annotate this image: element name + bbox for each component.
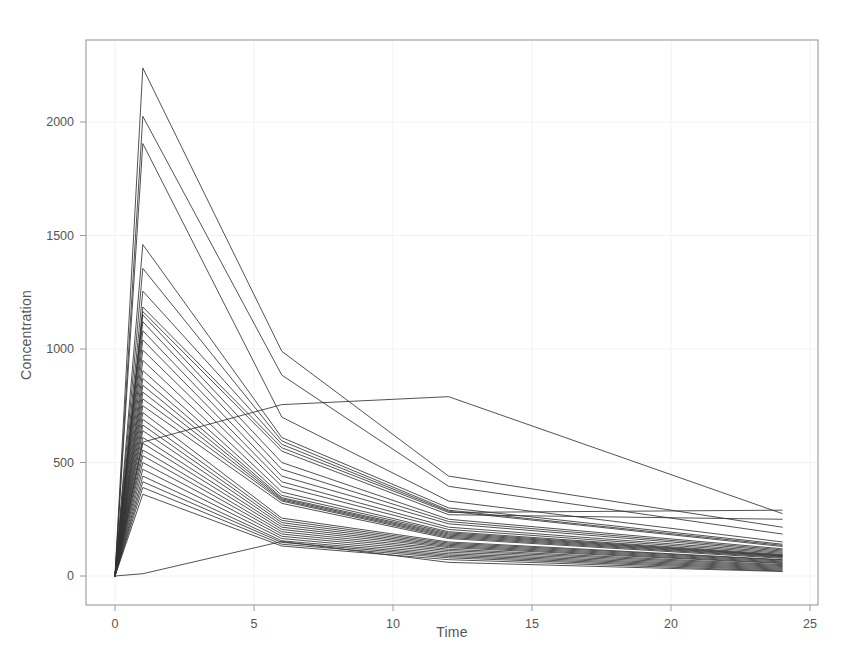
x-tick-label: 20 [664,617,678,631]
gridlines [86,40,818,605]
y-tick-label: 500 [53,456,74,470]
x-tick-label: 0 [112,617,119,631]
series-line [115,315,782,576]
y-tick-label: 0 [67,569,74,583]
y-tick-label: 1500 [46,229,74,243]
y-tick-label: 1000 [46,342,74,356]
series-line [115,245,782,576]
x-tick-label: 25 [803,617,817,631]
series-line [115,360,782,576]
plot-frame [86,40,818,605]
concentration-time-chart: Concentration Time 051015202505001000150… [0,0,857,666]
x-tick-label: 10 [386,617,400,631]
x-tick-label: 5 [251,617,258,631]
x-axis-title: Time [436,624,467,640]
series-line [115,331,782,576]
series-line [115,68,782,576]
series-line [115,340,782,576]
y-axis-title: Concentration [18,290,34,380]
series-line [115,116,782,576]
series-line [115,322,782,576]
x-tick-label: 15 [525,617,539,631]
y-tick-label: 2000 [46,115,74,129]
plot-canvas [0,0,857,666]
series-lines [115,68,782,576]
